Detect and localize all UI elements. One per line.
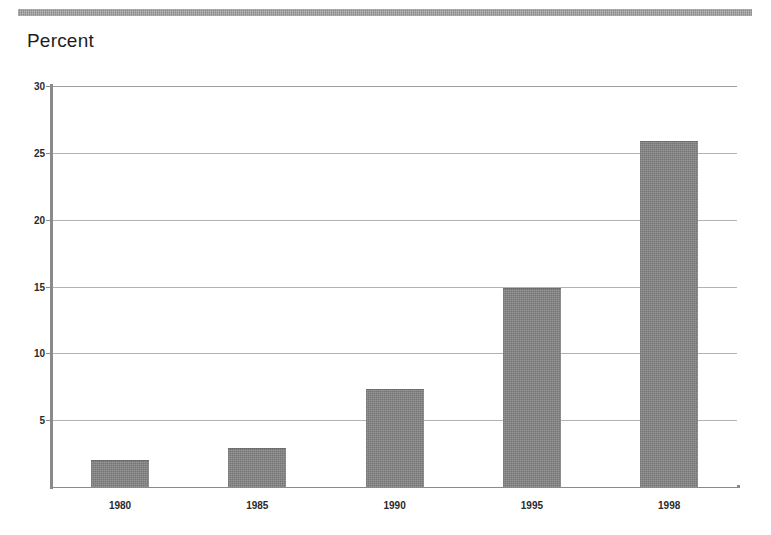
y-tick-30 (46, 86, 53, 87)
y-tick-20 (46, 220, 53, 221)
y-axis-tick-labels: 30252015105 (0, 0, 45, 535)
x-axis-label-1990: 1990 (365, 500, 425, 511)
gridline-25 (53, 153, 737, 154)
header-rule (18, 9, 752, 16)
y-axis-label-25: 25 (5, 147, 45, 158)
x-axis-label-1998: 1998 (639, 500, 699, 511)
x-axis-label-1985: 1985 (227, 500, 287, 511)
y-tick-15 (46, 287, 53, 288)
gridline-20 (53, 220, 737, 221)
y-axis-label-30: 30 (5, 81, 45, 92)
x-axis-tick-labels: 19801985199019951998 (0, 500, 771, 518)
bar-1980 (91, 460, 149, 487)
bar-1990 (366, 389, 424, 487)
y-axis-label-5: 5 (5, 415, 45, 426)
y-tick-10 (46, 353, 53, 354)
bar-1998 (640, 141, 698, 487)
y-tick-5 (46, 420, 53, 421)
x-axis-label-1980: 1980 (90, 500, 150, 511)
bar-1985 (228, 448, 286, 487)
y-tick-25 (46, 153, 53, 154)
bar-1995 (503, 288, 561, 487)
plot-area (53, 86, 737, 487)
x-axis-label-1995: 1995 (502, 500, 562, 511)
y-axis-label-20: 20 (5, 214, 45, 225)
gridline-15 (53, 287, 737, 288)
gridline-30 (53, 86, 737, 87)
y-axis-label-10: 10 (5, 348, 45, 359)
y-axis-label-15: 15 (5, 281, 45, 292)
gridline-10 (53, 353, 737, 354)
